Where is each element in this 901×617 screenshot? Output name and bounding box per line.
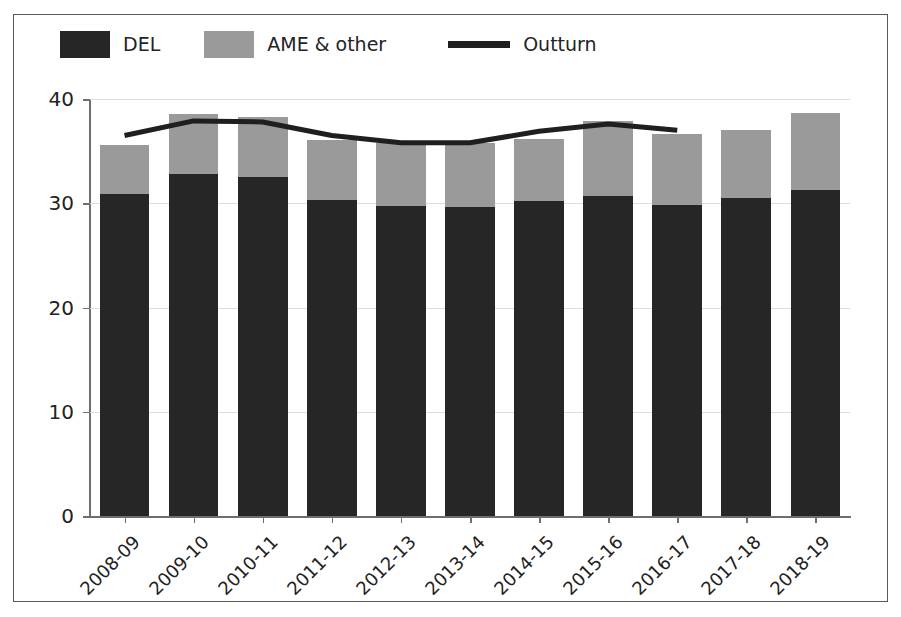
- x-tick-mark: [608, 516, 610, 523]
- y-tick-label: 0: [61, 504, 74, 528]
- y-tick-mark: [83, 99, 90, 101]
- outturn-line-series: [90, 99, 850, 516]
- y-tick-label: 20: [49, 296, 74, 320]
- y-tick-mark: [83, 203, 90, 205]
- x-tick-mark: [125, 516, 127, 523]
- chart-legend: DEL AME & other Outturn: [60, 22, 597, 66]
- y-tick-label: 10: [49, 400, 74, 424]
- figure-container: DEL AME & other Outturn Expenditure real…: [0, 0, 901, 617]
- x-tick-mark: [815, 516, 817, 523]
- x-tick-mark: [539, 516, 541, 523]
- line-segment-icon: [448, 41, 510, 48]
- y-tick-label: 30: [49, 191, 74, 215]
- x-tick-mark: [470, 516, 472, 523]
- x-tick-mark: [677, 516, 679, 523]
- legend-entry-ame: AME & other: [204, 31, 386, 58]
- filled-square-icon: [60, 31, 110, 58]
- y-tick-mark: [83, 516, 90, 518]
- legend-label-ame: AME & other: [267, 33, 386, 55]
- plot-area: 010203040 2008-092009-102010-112011-1220…: [90, 99, 850, 516]
- outturn-polyline: [125, 121, 678, 143]
- filled-square-icon: [204, 31, 254, 58]
- y-tick-mark: [83, 308, 90, 310]
- legend-label-del: DEL: [123, 33, 160, 55]
- x-tick-mark: [746, 516, 748, 523]
- x-tick-mark: [332, 516, 334, 523]
- x-tick-mark: [263, 516, 265, 523]
- x-tick-mark: [194, 516, 196, 523]
- y-tick-mark: [83, 412, 90, 414]
- y-tick-label: 40: [49, 87, 74, 111]
- legend-label-outturn: Outturn: [523, 33, 596, 55]
- x-tick-mark: [401, 516, 403, 523]
- legend-entry-outturn: Outturn: [448, 33, 596, 55]
- legend-entry-del: DEL: [60, 31, 160, 58]
